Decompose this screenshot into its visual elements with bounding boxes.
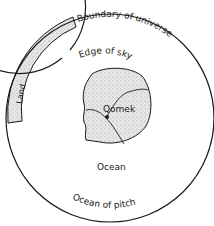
center-label: Qomek xyxy=(103,104,136,114)
boundary-label: Boundary of universe xyxy=(76,9,175,39)
pitch-label: Ocean of pitch xyxy=(71,192,137,210)
sky-label: Edge of sky xyxy=(77,45,134,61)
pitch-label-text: Ocean of pitch xyxy=(71,192,137,210)
qomek-dot xyxy=(105,115,109,119)
boundary-label-text: Boundary of universe xyxy=(76,9,175,39)
ocean-label: Ocean xyxy=(97,162,126,172)
sky-label-text: Edge of sky xyxy=(77,45,134,61)
cosmology-diagram: Boundary of universe Edge of sky Ocean o… xyxy=(0,0,214,226)
